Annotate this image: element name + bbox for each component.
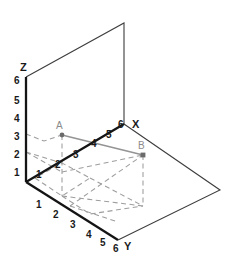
x-tick-5: 5 bbox=[106, 129, 112, 140]
z-tick-1: 1 bbox=[14, 167, 20, 178]
point-b-marker bbox=[141, 153, 146, 158]
coordinate-axes-diagram: Z X Y 1 2 3 4 5 6 1 2 3 4 5 6 1 2 3 4 5 … bbox=[0, 0, 229, 266]
z-tick-5: 5 bbox=[14, 95, 20, 106]
z-tick-2: 2 bbox=[14, 149, 20, 160]
y-tick-3: 3 bbox=[70, 219, 76, 230]
z-tick-3: 3 bbox=[14, 131, 20, 142]
point-b-label: B bbox=[138, 140, 145, 151]
guide-b-diagonal-b bbox=[90, 178, 143, 206]
guide-b-lower-left-edge bbox=[62, 196, 143, 206]
y-tick-4: 4 bbox=[86, 229, 92, 240]
z-tick-6: 6 bbox=[14, 75, 20, 86]
x-tick-2: 2 bbox=[55, 159, 61, 170]
x-tick-1: 1 bbox=[36, 169, 42, 180]
x-axis-label: X bbox=[132, 118, 140, 130]
y-tick-6: 6 bbox=[113, 243, 119, 254]
point-a-label: A bbox=[56, 120, 63, 131]
x-tick-6: 6 bbox=[118, 119, 124, 130]
guide-a-to-zaxis bbox=[26, 134, 62, 141]
y-tick-5: 5 bbox=[100, 237, 106, 248]
y-tick-1: 1 bbox=[36, 199, 42, 210]
diagram-canvas: Z X Y 1 2 3 4 5 6 1 2 3 4 5 6 1 2 3 4 5 … bbox=[0, 0, 229, 266]
x-tick-4: 4 bbox=[91, 138, 97, 149]
z-tick-4: 4 bbox=[14, 113, 20, 124]
x-tick-3: 3 bbox=[73, 149, 79, 160]
z-axis-label: Z bbox=[20, 61, 27, 73]
y-tick-2: 2 bbox=[53, 209, 59, 220]
y-axis-line bbox=[26, 182, 118, 240]
xy-plane-outline bbox=[118, 124, 220, 240]
y-axis-label: Y bbox=[124, 240, 132, 252]
xz-plane-outline bbox=[26, 23, 124, 124]
point-a-marker bbox=[60, 133, 65, 138]
